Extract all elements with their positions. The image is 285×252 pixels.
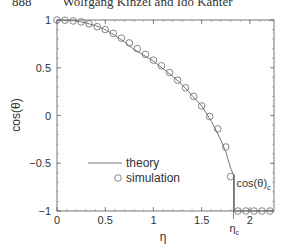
axis-ticks: 00.511.52−1−0.500.51 xyxy=(29,14,274,226)
eta-c-label: ηc xyxy=(229,222,239,236)
legend-theory-label: theory xyxy=(126,156,159,170)
eta-c-subscript: c xyxy=(236,229,240,236)
x-tick-label: 0 xyxy=(54,214,60,226)
chart: 00.511.52−1−0.500.51 ηccos(θ)c theorysim… xyxy=(0,0,285,252)
y-tick-label: −0.5 xyxy=(29,157,51,169)
cos-theta-c-subscript: c xyxy=(267,184,271,191)
y-tick-label: 1 xyxy=(45,14,51,26)
annotations: ηccos(θ)c xyxy=(229,175,271,236)
legend-simulation-swatch xyxy=(115,175,122,182)
x-axis-label: η xyxy=(160,230,167,244)
x-tick-label: 1 xyxy=(150,214,156,226)
legend: theorysimulation xyxy=(88,156,180,185)
simulation-point xyxy=(190,93,197,100)
legend-simulation-label: simulation xyxy=(126,171,180,185)
y-axis-label: cos(θ) xyxy=(9,98,23,131)
x-tick-label: 2 xyxy=(247,214,253,226)
y-tick-label: −1 xyxy=(38,205,51,217)
simulation-point xyxy=(227,173,234,180)
y-tick-label: 0.5 xyxy=(36,62,51,74)
x-tick-label: 1.5 xyxy=(194,214,209,226)
y-tick-label: 0 xyxy=(45,110,51,122)
x-tick-label: 0.5 xyxy=(98,214,113,226)
cos-theta-c-label: cos(θ)c xyxy=(236,177,271,191)
